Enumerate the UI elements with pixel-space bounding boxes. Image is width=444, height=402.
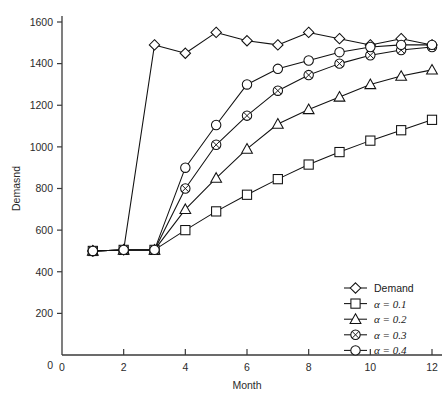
marker-diamond <box>334 33 344 43</box>
legend-label-5: α = 0.4 <box>374 344 407 356</box>
x-axis-title: Month <box>232 379 261 391</box>
y-tick-label: 800 <box>35 182 53 194</box>
marker-square <box>427 115 436 124</box>
legend-label-4: α = 0.3 <box>374 329 407 341</box>
legend-label-3: α = 0.2 <box>374 313 407 325</box>
y-tick-label: 200 <box>35 307 53 319</box>
origin-tick-label: 0 <box>47 359 53 371</box>
y-tick-label: 400 <box>35 266 53 278</box>
y-tick-label: 1400 <box>30 57 54 69</box>
series--0-2 <box>87 64 437 255</box>
marker-circle <box>181 163 190 172</box>
marker-diamond <box>211 27 221 37</box>
demand-forecast-chart: 20040060080010001200140016000024681012Mo… <box>0 0 444 402</box>
marker-circle <box>119 245 128 254</box>
x-tick-label: 2 <box>121 361 127 373</box>
series-path <box>93 32 432 251</box>
marker-square <box>242 190 251 199</box>
marker-circle <box>335 47 344 56</box>
series-path <box>93 45 432 251</box>
chart-canvas: 20040060080010001200140016000024681012Mo… <box>0 0 444 402</box>
marker-circle <box>366 42 375 51</box>
marker-diamond <box>303 27 313 37</box>
marker-circle <box>427 40 436 49</box>
marker-circle <box>150 245 159 254</box>
x-tick-label: 4 <box>182 361 188 373</box>
x-tick-label: 10 <box>364 361 376 373</box>
x-tick-label: 6 <box>244 361 250 373</box>
series-demand <box>88 27 438 256</box>
legend-label-2: α = 0.1 <box>374 298 406 310</box>
marker-triangle <box>427 64 438 74</box>
marker-circle <box>351 346 360 355</box>
marker-square <box>335 147 344 156</box>
series-path <box>93 70 432 251</box>
marker-circle <box>211 120 220 129</box>
chart-legend: Demandα = 0.1α = 0.2α = 0.3α = 0.4 <box>344 282 414 356</box>
marker-square <box>397 126 406 135</box>
marker-diamond <box>273 40 283 50</box>
marker-square <box>212 207 221 216</box>
series-path <box>93 120 432 251</box>
marker-diamond <box>180 48 190 58</box>
marker-diamond <box>149 40 159 50</box>
y-tick-label: 1200 <box>30 99 54 111</box>
y-tick-label: 1000 <box>30 141 54 153</box>
marker-circle <box>273 64 282 73</box>
x-tick-label: 12 <box>426 361 438 373</box>
marker-triangle <box>242 144 253 154</box>
y-tick-label: 1600 <box>30 16 54 28</box>
marker-triangle <box>334 92 345 102</box>
marker-circle <box>88 246 97 255</box>
marker-diamond <box>242 36 252 46</box>
marker-circle <box>304 56 313 65</box>
marker-triangle <box>272 119 283 129</box>
series-path <box>93 47 432 251</box>
series--0-4 <box>88 40 437 255</box>
marker-square <box>181 226 190 235</box>
marker-circle <box>396 40 405 49</box>
marker-diamond <box>350 283 360 293</box>
y-tick-label: 600 <box>35 224 53 236</box>
marker-circle <box>242 80 251 89</box>
y-axis-title: Demasnd <box>10 166 22 211</box>
legend-label-1: Demand <box>374 282 414 294</box>
marker-triangle <box>303 104 314 114</box>
x-tick-label: 0 <box>59 361 65 373</box>
x-tick-label: 8 <box>306 361 312 373</box>
marker-square <box>273 175 282 184</box>
series--0-3 <box>88 42 437 255</box>
marker-square <box>366 136 375 145</box>
marker-square <box>304 160 313 169</box>
marker-square <box>351 299 360 308</box>
marker-triangle <box>350 314 361 324</box>
